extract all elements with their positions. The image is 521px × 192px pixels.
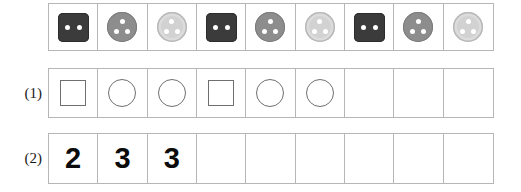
- button-hole: [471, 29, 476, 34]
- answer-digit: 2: [65, 144, 81, 173]
- button-hole: [410, 29, 415, 34]
- shapes-cell[interactable]: [345, 69, 394, 117]
- button-hole: [416, 19, 421, 24]
- button-hole: [169, 19, 174, 24]
- answer-digit: 3: [114, 144, 130, 173]
- shapes-cell[interactable]: [98, 69, 147, 117]
- button-hole: [114, 29, 119, 34]
- numbers-cell[interactable]: [197, 134, 246, 183]
- button-hole: [317, 19, 322, 24]
- numbers-cell[interactable]: 3: [148, 134, 197, 183]
- numbers-cell[interactable]: 2: [49, 134, 98, 183]
- shape-circle: [158, 79, 186, 107]
- shape-circle: [108, 79, 136, 107]
- button-hole: [77, 25, 82, 30]
- numbers-cell[interactable]: [345, 134, 394, 183]
- button-hole: [125, 29, 130, 34]
- shape-square: [208, 80, 234, 106]
- buttons-cell: [246, 4, 295, 50]
- button-hole: [175, 29, 180, 34]
- button-hole: [373, 25, 378, 30]
- buttons-cell: [98, 4, 147, 50]
- button-circle-medium: [107, 12, 137, 42]
- shapes-cell[interactable]: [246, 69, 295, 117]
- button-circle-light: [157, 12, 187, 42]
- button-hole: [213, 25, 218, 30]
- button-hole: [164, 29, 169, 34]
- shape-square: [60, 80, 86, 106]
- buttons-cell: [49, 4, 98, 50]
- number-answer-row[interactable]: 233: [48, 133, 494, 184]
- numbers-cell[interactable]: [246, 134, 295, 183]
- row-label-2: (2): [2, 150, 42, 167]
- buttons-cell: [444, 4, 493, 50]
- shapes-cell[interactable]: [296, 69, 345, 117]
- buttons-cell: [394, 4, 443, 50]
- numbers-cell[interactable]: [296, 134, 345, 183]
- button-hole: [466, 19, 471, 24]
- shape-circle: [256, 79, 284, 107]
- button-hole: [361, 25, 366, 30]
- answer-digit: 3: [164, 144, 180, 173]
- button-circle-medium: [255, 12, 285, 42]
- button-circle-light: [305, 12, 335, 42]
- buttons-cell: [296, 4, 345, 50]
- numbers-cell[interactable]: 3: [98, 134, 147, 183]
- button-pattern-row: [48, 3, 494, 51]
- button-square-dark: [206, 13, 237, 42]
- button-hole: [262, 29, 267, 34]
- numbers-cell[interactable]: [394, 134, 443, 183]
- shapes-cell[interactable]: [444, 69, 493, 117]
- button-hole: [323, 29, 328, 34]
- button-square-dark: [58, 13, 89, 42]
- button-hole: [120, 19, 125, 24]
- row-label-1: (1): [2, 85, 42, 102]
- shapes-cell[interactable]: [148, 69, 197, 117]
- buttons-cell: [197, 4, 246, 50]
- buttons-cell: [148, 4, 197, 50]
- button-hole: [421, 29, 426, 34]
- buttons-cell: [345, 4, 394, 50]
- button-circle-medium: [403, 12, 433, 42]
- button-hole: [268, 19, 273, 24]
- button-hole: [225, 25, 230, 30]
- shapes-cell[interactable]: [197, 69, 246, 117]
- shapes-cell[interactable]: [394, 69, 443, 117]
- button-hole: [460, 29, 465, 34]
- button-hole: [273, 29, 278, 34]
- button-hole: [65, 25, 70, 30]
- button-hole: [312, 29, 317, 34]
- button-circle-light: [453, 12, 483, 42]
- numbers-cell[interactable]: [444, 134, 493, 183]
- button-square-dark: [354, 13, 385, 42]
- shapes-cell[interactable]: [49, 69, 98, 117]
- shape-answer-row[interactable]: [48, 68, 494, 118]
- shape-circle: [306, 79, 334, 107]
